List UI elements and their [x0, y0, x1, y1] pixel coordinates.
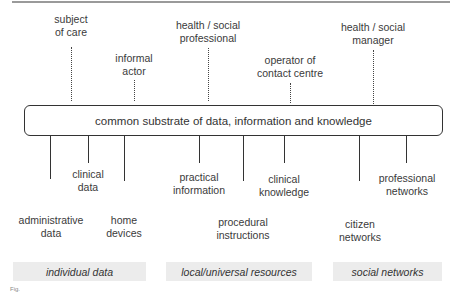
- actor-health-social-manager-label: health / social manager: [341, 21, 405, 47]
- actor-operator-contact-centre-label: operator of contact centre: [257, 54, 323, 80]
- category-local-universal-resources-label: local/universal resources: [181, 266, 297, 278]
- actor-informal-actor-label: informal actor: [115, 52, 152, 78]
- category-social-networks: social networks: [333, 262, 442, 281]
- actor-health-social-professional-label: health / social professional: [176, 19, 240, 45]
- category-individual-data-label: individual data: [46, 266, 113, 278]
- connector-citizen-networks: [359, 136, 360, 181]
- resource-home-devices-label: home devices: [106, 214, 142, 240]
- connector-clinical-data: [88, 136, 89, 163]
- connector-operator-contact-centre: [290, 83, 291, 103]
- resource-professional-networks-label: professional networks: [379, 172, 436, 198]
- connector-administrative-data: [50, 136, 51, 179]
- resource-citizen-networks-label: citizen networks: [339, 218, 381, 244]
- connector-procedural-instructions: [243, 136, 244, 181]
- connector-subject-of-care: [71, 47, 72, 101]
- resource-administrative-data-label: administrative data: [19, 214, 84, 240]
- connector-health-social-manager: [373, 50, 374, 104]
- actor-subject-of-care-label: subject of care: [54, 13, 87, 39]
- substrate-label: common substrate of data, information an…: [95, 115, 372, 127]
- connector-home-devices: [124, 136, 125, 181]
- connector-clinical-knowledge: [284, 136, 285, 163]
- category-local-universal-resources: local/universal resources: [166, 262, 312, 281]
- resource-clinical-data-label: clinical data: [72, 168, 104, 194]
- figure-caption: Fig.: [10, 286, 20, 292]
- connector-professional-networks: [406, 136, 407, 163]
- page-top-rule: [12, 1, 450, 3]
- common-substrate-box: common substrate of data, information an…: [24, 105, 443, 136]
- category-social-networks-label: social networks: [352, 266, 424, 278]
- connector-informal-actor: [134, 80, 135, 101]
- resource-clinical-knowledge-label: clinical knowledge: [259, 173, 309, 199]
- connector-practical-information: [199, 136, 200, 163]
- category-individual-data: individual data: [13, 262, 146, 281]
- connector-health-social-professional: [208, 48, 209, 101]
- resource-procedural-instructions-label: procedural instructions: [216, 216, 269, 242]
- resource-practical-information-label: practical information: [173, 171, 225, 197]
